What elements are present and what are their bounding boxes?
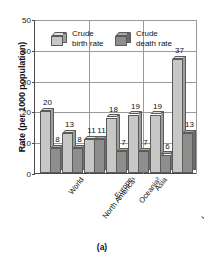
bar-value-oceania-birth: 18 (106, 105, 121, 114)
legend-item-crude-birth-rate: Crude birth rate (51, 28, 104, 48)
cube-light-icon (51, 31, 68, 46)
bar-value-world-birth: 20 (40, 98, 55, 107)
y-axis-title: Rate (per 1000 population) (17, 22, 27, 172)
gridline-50 (35, 20, 197, 21)
legend-label-birth: Crude birth rate (72, 28, 104, 48)
x-label-latin-america: Latin America and the Caribbean (196, 176, 204, 236)
bar-africa-death: 13 (182, 133, 193, 173)
bar-value-latin-america-birth: 19 (150, 102, 165, 111)
y-tick-label-40: 40 (22, 46, 31, 55)
legend-label-death: Crude death rate (136, 28, 172, 48)
bar-world-death: 8 (50, 148, 61, 173)
bar-value-north-america-birth: 13 (62, 120, 77, 129)
plot-area: 50 40 30 20 10 0 Crude birth rate Crude … (34, 20, 196, 174)
bar-latin-america-death: 6 (160, 155, 171, 174)
bar-europe-death: 11 (94, 139, 105, 173)
y-tick-label-50: 50 (22, 16, 31, 25)
figure-caption: (a) (0, 242, 204, 252)
legend-item-crude-death-rate: Crude death rate (115, 28, 172, 48)
bar-value-asia-birth: 19 (128, 102, 143, 111)
x-label-world: World (67, 176, 85, 196)
bar-value-africa-death: 13 (182, 120, 197, 129)
bar-oceania-death: 7 (116, 151, 127, 173)
y-tick-label-20: 20 (22, 108, 31, 117)
bar-north-america-death: 8 (72, 148, 83, 173)
bar-asia-death: 7 (138, 151, 149, 173)
y-tick-label-10: 10 (22, 139, 31, 148)
x-axis-labels: World North America¹ Europe Oceania² Asi… (34, 176, 204, 246)
cube-dark-icon (115, 31, 132, 46)
y-tick-label-30: 30 (22, 77, 31, 86)
bar-value-africa-birth: 37 (172, 46, 187, 55)
y-tick-label-0: 0 (27, 170, 31, 179)
figure-panel: Rate (per 1000 population) 50 40 30 20 1… (0, 0, 204, 264)
